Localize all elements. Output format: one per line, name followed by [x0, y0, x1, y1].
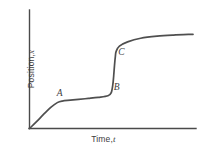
y-axis-label-container: Position,x	[0, 10, 90, 128]
y-axis-label: Position,x	[26, 50, 36, 89]
x-axis-label-variable: t	[113, 134, 116, 144]
position-time-graph: A B C Position,x Time,t	[0, 0, 207, 154]
annotation-label-b: B	[114, 82, 120, 92]
x-axis-label-text: Time,	[91, 134, 113, 144]
x-axis-label: Time,t	[0, 134, 207, 144]
y-axis-label-variable: x	[26, 50, 36, 54]
annotation-label-c: C	[118, 47, 125, 57]
y-axis-label-text: Position,	[26, 54, 36, 88]
